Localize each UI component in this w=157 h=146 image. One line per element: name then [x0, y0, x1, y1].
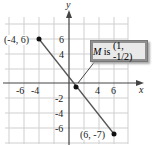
midpoint-m	[74, 85, 79, 90]
y-tick: -6	[55, 124, 63, 134]
midpoint-name: M	[93, 46, 101, 57]
x-tick: 6	[111, 86, 116, 96]
x-tick: -6	[16, 86, 24, 96]
y-tick: -2	[55, 94, 63, 104]
midpoint-callout: M is (1, -1/2)	[90, 40, 148, 62]
y-tick: -4	[55, 109, 63, 119]
x-tick: -4	[31, 86, 39, 96]
y-tick: 6	[59, 35, 64, 45]
x-axis-label: x	[139, 85, 143, 95]
y-tick: 4	[59, 50, 64, 60]
endpoint-b	[112, 132, 117, 137]
point-label-b: (6, -7)	[80, 130, 105, 140]
x-tick: 4	[95, 86, 100, 96]
y-axis-arrow-icon	[66, 10, 72, 18]
endpoint-a	[37, 37, 42, 42]
callout-leader	[78, 60, 96, 83]
midpoint-is: is	[104, 46, 111, 57]
y-axis-label: y	[66, 0, 70, 10]
point-label-a: (-4, 6)	[4, 35, 29, 45]
coordinate-plane	[0, 0, 157, 146]
midpoint-value: (1, -1/2)	[113, 40, 145, 62]
